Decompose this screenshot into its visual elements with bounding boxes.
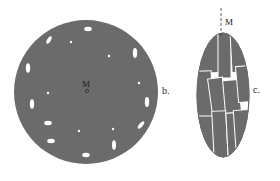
inclusion <box>26 63 30 73</box>
panel-b: M b. <box>14 20 170 164</box>
panel-b-label: b. <box>162 85 170 96</box>
inclusion-dot <box>70 41 72 43</box>
inclusion-dot <box>78 130 80 132</box>
figure-canvas: M b. M c. <box>0 0 280 181</box>
panel-b-marker-label: M <box>82 79 90 89</box>
inclusion-dot <box>112 128 114 130</box>
panel-c: M c. <box>195 8 260 161</box>
inclusion <box>112 140 116 150</box>
inclusion <box>82 153 90 157</box>
panel-c-marker-label: M <box>225 17 233 27</box>
inclusion <box>133 48 137 58</box>
inclusion <box>84 27 92 31</box>
inclusion <box>47 139 55 143</box>
inclusion <box>145 97 149 107</box>
inclusion-dot <box>47 92 49 94</box>
inclusion-dot <box>108 55 110 57</box>
panel-c-label: c. <box>253 84 260 95</box>
inclusion <box>44 121 52 125</box>
block <box>218 30 231 78</box>
inclusion-dot <box>138 82 140 84</box>
inclusion <box>30 99 34 109</box>
block <box>235 65 252 102</box>
